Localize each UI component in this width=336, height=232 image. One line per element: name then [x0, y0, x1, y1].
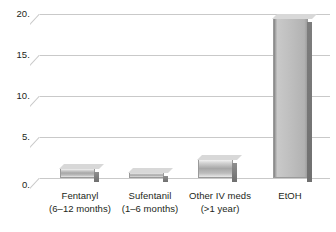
- bar-face: [273, 18, 308, 178]
- gridline-riser-5: [30, 137, 41, 149]
- bar-top-face: [272, 14, 317, 19]
- y-axis-tick-20: 20.: [0, 9, 30, 19]
- x-label-line1: Fentanyl: [62, 190, 99, 201]
- bar-face: [129, 172, 164, 178]
- bar-face: [60, 168, 95, 178]
- y-axis-tick-10: 10.: [0, 91, 30, 101]
- bar-top-face: [197, 155, 242, 160]
- y-axis-tick-15: 15.: [0, 50, 30, 60]
- bar-side-face: [163, 176, 168, 182]
- plot-area: 20. 15. 10. 5. 0.: [0, 0, 336, 232]
- bar-other-iv-meds[interactable]: [198, 159, 233, 178]
- gridline-riser-0: [30, 178, 41, 190]
- x-label-line2: (>1 year): [172, 203, 268, 216]
- x-label-line1: EtOH: [278, 190, 301, 201]
- y-axis-tick-0: 0.: [0, 180, 30, 190]
- x-label-line1: Sufentanil: [129, 190, 172, 201]
- y-axis-tick-5: 5.: [0, 132, 30, 142]
- bar-fentanyl[interactable]: [60, 168, 95, 178]
- bar-top-face: [59, 164, 104, 169]
- bar-top-face: [128, 168, 173, 173]
- x-label-line1: Other IV meds: [189, 190, 251, 201]
- bar-face: [198, 159, 233, 178]
- bar-side-face: [307, 22, 312, 182]
- bar-sufentanil[interactable]: [129, 172, 164, 178]
- x-axis-label-etoh: EtOH: [252, 190, 328, 203]
- gridline-riser-20: [30, 14, 41, 26]
- bar-chart: 20. 15. 10. 5. 0.: [0, 0, 336, 232]
- bar-side-face: [232, 163, 237, 182]
- bar-etoh[interactable]: [273, 18, 308, 178]
- gridline-riser-10: [30, 96, 41, 108]
- bar-side-face: [94, 172, 99, 182]
- baseline-gridline-0: [40, 178, 330, 179]
- gridline-riser-15: [30, 55, 41, 67]
